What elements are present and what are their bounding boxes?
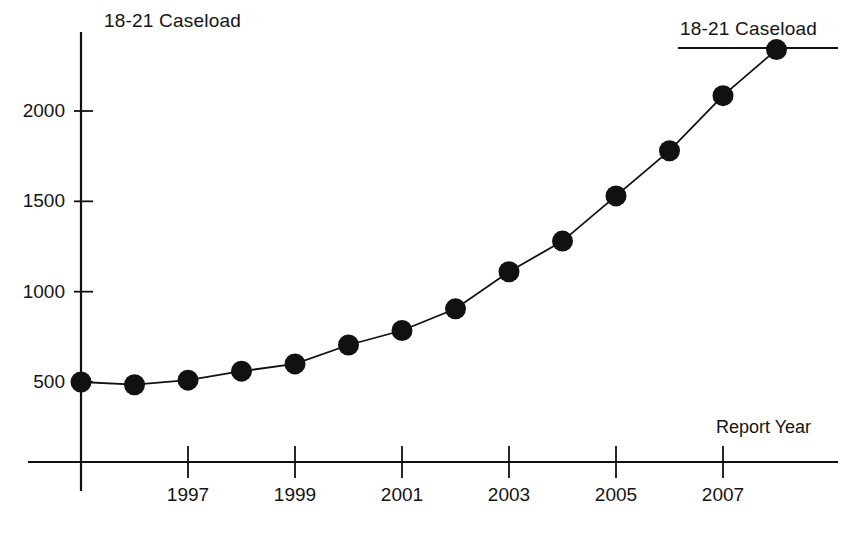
x-tick-label: 2007 — [702, 484, 744, 506]
x-tick-label: 1999 — [274, 484, 316, 506]
data-point-marker — [392, 320, 413, 341]
x-tick-label: 1997 — [167, 484, 209, 506]
data-point-marker — [178, 370, 199, 391]
data-point-marker — [124, 374, 145, 395]
data-point-marker — [338, 334, 359, 355]
series-markers — [71, 39, 788, 395]
y-tick-label: 1500 — [23, 190, 65, 212]
series-line-18-21-caseload — [81, 50, 777, 385]
data-point-marker — [659, 140, 680, 161]
data-point-marker — [445, 298, 466, 319]
chart-figure: 18-21 Caseload 18-21 Caseload Report Yea… — [0, 0, 853, 534]
data-point-marker — [606, 185, 627, 206]
y-axis-tick-marks — [74, 111, 93, 382]
x-tick-label: 2005 — [595, 484, 637, 506]
data-point-marker — [71, 372, 92, 393]
data-point-marker — [766, 39, 787, 60]
data-point-marker — [713, 85, 734, 106]
data-point-marker — [231, 361, 252, 382]
plot-area — [0, 0, 853, 534]
data-point-marker — [499, 261, 520, 282]
x-tick-label: 2003 — [488, 484, 530, 506]
y-tick-label: 2000 — [23, 100, 65, 122]
y-tick-label: 500 — [33, 371, 65, 393]
y-tick-label: 1000 — [23, 281, 65, 303]
data-point-marker — [285, 353, 306, 374]
data-point-marker — [552, 231, 573, 252]
x-tick-label: 2001 — [381, 484, 423, 506]
